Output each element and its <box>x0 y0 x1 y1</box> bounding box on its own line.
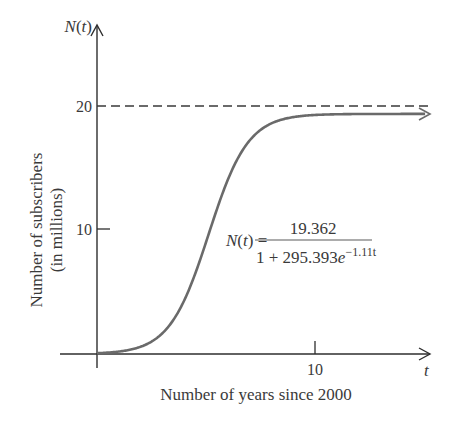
y-tick-label-10: 10 <box>76 221 92 238</box>
x-axis-title: Number of years since 2000 <box>160 385 352 404</box>
formula-numerator: 19.362 <box>290 219 337 238</box>
x-tick-label-10: 10 <box>307 361 323 378</box>
function-label: N(t) = 19.362 1 + 295.393e−1.11t <box>225 219 377 267</box>
y-tick-label-20: 20 <box>76 98 92 115</box>
y-axis-title-line2: (in millions) <box>47 188 66 273</box>
y-axis-var-label: N(t) <box>64 17 92 36</box>
x-axis-var-label: t <box>424 361 430 380</box>
formula-denominator: 1 + 295.393e−1.11t <box>256 245 377 267</box>
y-axis-title-line1: Number of subscribers <box>27 153 46 308</box>
logistic-chart: N(t) t 20 10 10 Number of years since 20… <box>0 0 465 422</box>
